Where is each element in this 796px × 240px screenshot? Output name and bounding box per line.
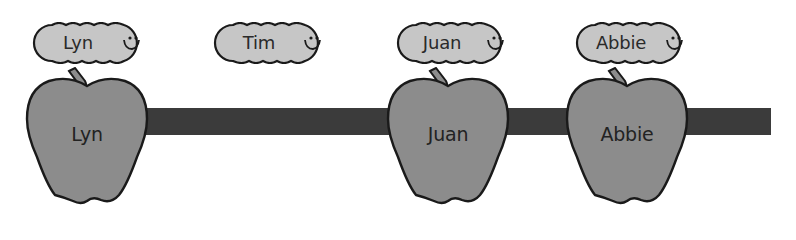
caterpillar-lyn: Lyn — [32, 22, 146, 64]
caterpillar-abbie: Abbie — [575, 22, 689, 64]
apple-lyn: Lyn — [25, 67, 149, 205]
apple-label: Juan — [386, 123, 510, 145]
apple-label: Lyn — [25, 123, 149, 145]
caterpillar-label: Juan — [396, 22, 488, 64]
apple-juan: Juan — [386, 67, 510, 205]
caterpillar-label: Abbie — [575, 22, 667, 64]
apple-label: Abbie — [565, 123, 689, 145]
caterpillar-label: Tim — [213, 22, 305, 64]
apple-abbie: Abbie — [565, 67, 689, 205]
caterpillar-juan: Juan — [396, 22, 510, 64]
caterpillar-label: Lyn — [32, 22, 124, 64]
caterpillar-tim: Tim — [213, 22, 327, 64]
